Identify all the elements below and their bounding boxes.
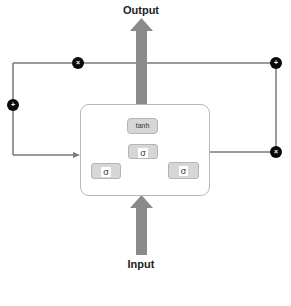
- multiply-icon: ×: [274, 148, 278, 155]
- add-node-left: +: [7, 99, 19, 111]
- multiply-node-top: ×: [72, 57, 84, 69]
- tanh-gate: tanh: [127, 118, 158, 134]
- tanh-label: tanh: [136, 122, 150, 129]
- sigma-gate-right: σ: [168, 162, 199, 179]
- sigma-label: σ: [101, 167, 111, 177]
- multiply-icon: ×: [76, 59, 80, 66]
- output-arrow-shaft: [136, 30, 147, 105]
- output-label: Output: [101, 4, 181, 16]
- sigma-gate-center: σ: [128, 144, 158, 159]
- plus-icon: +: [274, 59, 278, 66]
- left-arrowhead-icon: [73, 152, 80, 158]
- plus-icon: +: [11, 101, 15, 108]
- output-arrowhead-icon: [130, 18, 153, 31]
- sigma-gate-left: σ: [91, 163, 121, 179]
- input-arrow-shaft: [136, 207, 147, 255]
- input-arrowhead-icon: [130, 195, 153, 208]
- multiply-node-right: ×: [270, 146, 282, 158]
- sigma-label: σ: [138, 148, 148, 158]
- add-node-top: +: [270, 57, 282, 69]
- input-label: Input: [101, 258, 181, 270]
- sigma-label: σ: [179, 166, 189, 176]
